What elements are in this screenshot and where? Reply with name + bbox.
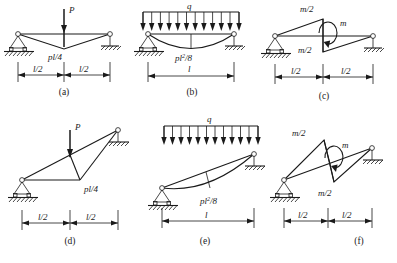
moment-label: pl/4 <box>83 184 99 194</box>
moment-label: pl2/8 <box>199 195 218 206</box>
dimension-line-group <box>275 64 373 84</box>
load-label-P: P <box>74 122 81 132</box>
panel-c: m m/2 m/2 <box>255 0 397 112</box>
couple-arrow-head <box>324 41 331 49</box>
panel-b: q pl2/8 <box>128 0 268 100</box>
dimension-label-left: l/2 <box>33 64 43 74</box>
load-label-q: q <box>187 1 192 11</box>
support-pin-triangle <box>154 190 170 202</box>
dimension-line-group <box>18 62 110 82</box>
dimension-label-left: l/2 <box>291 66 301 76</box>
dimension-label-right: l/2 <box>79 64 89 74</box>
moment-label: pl2/8 <box>174 52 193 63</box>
support-pin-triangle <box>10 36 26 48</box>
support-roller-hinge <box>232 32 237 37</box>
panel-a-drawing: P pl/4 <box>0 0 140 100</box>
panel-b-drawing: q pl2/8 <box>128 0 268 100</box>
panel-f-drawing: m m/2 m/2 <box>262 108 397 263</box>
moment-label-top: m/2 <box>292 128 306 138</box>
support-pin-hatching <box>271 198 299 203</box>
support-pin-triangle <box>14 182 30 194</box>
panel-caption-e: (e) <box>188 236 222 246</box>
support-roller-hinge <box>370 146 375 151</box>
support-roller-hatching <box>225 46 245 50</box>
moment-diagram-left <box>284 140 330 180</box>
couple-arc <box>319 22 337 44</box>
load-label-m: m <box>342 140 349 150</box>
dimension-line-group <box>22 210 118 230</box>
panel-a: P pl/4 <box>0 0 140 100</box>
support-pin-hatching <box>262 54 290 59</box>
support-pin-hatching <box>149 206 177 211</box>
panel-caption-c: (c) <box>307 91 341 101</box>
support-roller-hatching <box>109 142 129 146</box>
dimension-label-right: l/2 <box>341 66 351 76</box>
support-pin-hatching <box>5 52 33 57</box>
support-pin-hatching <box>9 198 37 203</box>
figure-sheet: P pl/4 <box>0 0 397 263</box>
dimension-label-span: l <box>188 64 191 74</box>
dimension-label-span: l <box>205 210 208 220</box>
dimension-label-left: l/2 <box>38 212 48 222</box>
panel-d: P pl/4 <box>0 108 150 263</box>
dimension-line-group <box>162 208 254 228</box>
panel-caption-d: (d) <box>53 236 87 246</box>
panel-caption-f: (f) <box>342 236 376 246</box>
dimension-line-group <box>148 62 234 82</box>
udl-arrows <box>161 126 260 145</box>
support-pin-triangle <box>267 38 283 50</box>
load-label-q: q <box>207 114 212 124</box>
load-arrow-head <box>61 25 67 33</box>
panel-caption-b: (b) <box>175 87 209 97</box>
udl-arrows <box>140 12 241 31</box>
support-roller-hatching <box>364 48 384 52</box>
moment-label-bottom: m/2 <box>298 45 312 55</box>
load-label-P: P <box>68 5 75 15</box>
panel-caption-a: (a) <box>47 87 81 97</box>
moment-label-bottom: m/2 <box>318 188 332 198</box>
moment-label-top: m/2 <box>300 4 314 14</box>
moment-ordinate <box>206 172 210 188</box>
dimension-label-right: l/2 <box>86 212 96 222</box>
support-pin-triangle <box>276 182 292 194</box>
support-roller-hinge <box>108 32 113 37</box>
load-label-m: m <box>340 18 347 28</box>
dimension-label-right: l/2 <box>342 210 352 220</box>
moment-diagram-right-leg <box>80 130 118 180</box>
panel-f: m m/2 m/2 <box>262 108 397 263</box>
dimension-label-left: l/2 <box>298 210 308 220</box>
beam-axis <box>284 148 372 180</box>
moment-diagram-left <box>275 19 323 36</box>
support-roller-hatching <box>101 46 121 50</box>
support-roller-hatching <box>363 160 383 164</box>
moment-label: pl/4 <box>47 52 63 62</box>
support-roller-hinge <box>116 128 121 133</box>
support-pin-hatching <box>135 52 163 57</box>
moment-ordinate <box>70 155 80 180</box>
support-roller-hinge <box>252 152 257 157</box>
support-roller-hinge <box>371 34 376 39</box>
